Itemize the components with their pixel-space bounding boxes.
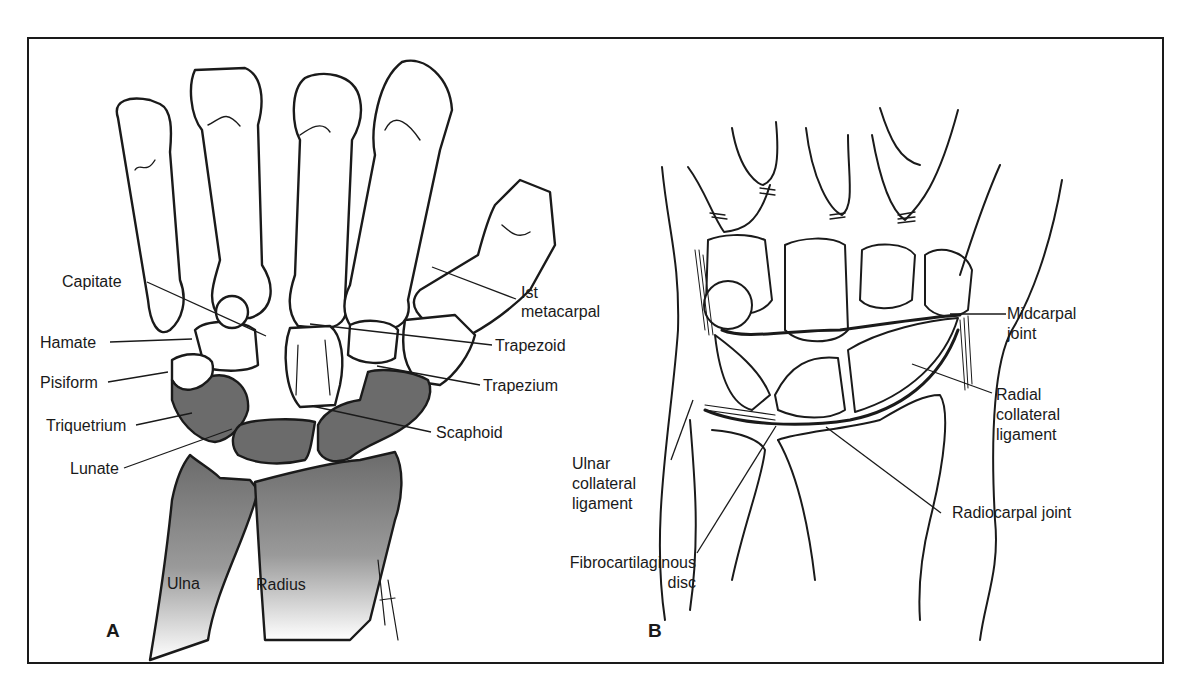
metacarpal-4 [191,68,271,318]
panel-letter-a: A [106,620,120,642]
label-ulnar-collateral-line1: Ulnar [572,454,610,473]
label-radiocarpal-joint: Radiocarpal joint [952,503,1071,522]
radius-bone [255,452,401,640]
label-pisiform: Pisiform [40,373,98,392]
triquetrum-b [715,335,770,410]
label-lunate: Lunate [70,459,119,478]
label-trapezium: Trapezium [483,376,558,395]
label-ulna: Ulna [167,574,200,593]
label-fibrocartilaginous-line1: Fibrocartilaginous [556,553,696,572]
hook-of-hamate [216,296,248,328]
midcarpal-arc [722,315,960,334]
label-trapezoid: Trapezoid [495,336,566,355]
label-hamate: Hamate [40,333,96,352]
capitate-b [785,239,848,342]
panel-letter-b: B [648,620,662,642]
panel-a-drawing [117,61,555,660]
label-capitate: Capitate [62,272,122,291]
ulna-bone [150,455,258,660]
label-triquetrium: Triquetrium [46,416,126,435]
wrist-illustration [0,0,1192,700]
label-ulnar-collateral-line3: ligament [572,494,632,513]
trapezoid-bone [348,321,398,363]
lunate-bone [233,419,315,463]
label-radial-collateral-line2: collateral [996,405,1060,424]
label-fibrocartilaginous-line2: disc [556,573,696,592]
label-radius: Radius [256,575,306,594]
label-radial-collateral-line1: Radial [996,385,1041,404]
label-midcarpal-line2: joint [1007,324,1036,343]
trapezoid-b [860,245,915,309]
capitate-bone [286,326,343,407]
label-ulnar-collateral-line2: collateral [572,474,636,493]
label-radial-collateral-line3: ligament [996,425,1056,444]
label-midcarpal-line1: Midcarpal [1007,304,1076,323]
label-first-metacarpal-line1: Ist [521,283,538,302]
panel-b-drawing [660,108,1062,640]
label-first-metacarpal-line2: metacarpal [521,302,600,321]
label-scaphoid: Scaphoid [436,423,503,442]
metacarpal-5 [117,99,184,333]
lunate-b [775,357,845,417]
trapezium-b [925,250,972,316]
